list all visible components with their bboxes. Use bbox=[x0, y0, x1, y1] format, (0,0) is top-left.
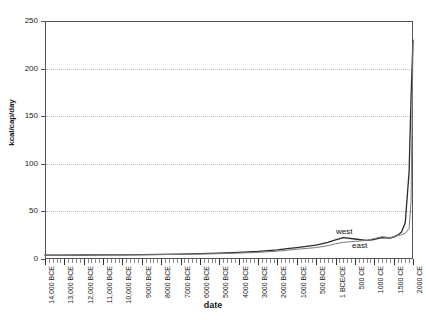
chart-container: kcal/cap/day 050100150200250 west east 1… bbox=[0, 0, 426, 320]
x-tick-label: 3000 BCE bbox=[261, 266, 268, 320]
x-tick-label: 1 BCE/CE bbox=[339, 266, 346, 320]
y-tick-mark bbox=[41, 211, 45, 212]
x-tick-label: 6000 BCE bbox=[203, 266, 210, 320]
x-tick-label: 9000 BCE bbox=[145, 266, 152, 320]
y-tick-mark bbox=[41, 116, 45, 117]
y-tick-mark bbox=[41, 69, 45, 70]
x-tick-label: 2000 CE bbox=[416, 266, 423, 320]
x-tick-label: 1500 CE bbox=[397, 266, 404, 320]
x-tick-label: 10,000 BCE bbox=[125, 266, 132, 320]
x-tick-label: 500 BCE bbox=[319, 266, 326, 320]
x-tick-label: 14,000 BCE bbox=[48, 266, 55, 320]
x-tick-label: 11,000 BCE bbox=[106, 266, 113, 320]
x-tick-label: 1000 BCE bbox=[300, 266, 307, 320]
x-tick-label: 500 CE bbox=[358, 266, 365, 320]
x-tick-label: 1000 CE bbox=[377, 266, 384, 320]
x-tick-label: 13,000 BCE bbox=[67, 266, 74, 320]
x-tick-label: 4000 BCE bbox=[242, 266, 249, 320]
y-tick-mark bbox=[41, 164, 45, 165]
y-tick-mark bbox=[41, 21, 45, 22]
x-tick-label: 12,000 BCE bbox=[87, 266, 94, 320]
x-tick-label: 7000 BCE bbox=[184, 266, 191, 320]
y-tick-mark bbox=[41, 259, 45, 260]
x-tick-label: 2000 BCE bbox=[280, 266, 287, 320]
x-axis-tick-labels: 14,000 BCE13,000 BCE12,000 BCE11,000 BCE… bbox=[0, 0, 426, 320]
x-tick-label: 8000 BCE bbox=[164, 266, 171, 320]
x-tick-label: 5000 BCE bbox=[222, 266, 229, 320]
x-axis-title: date bbox=[0, 300, 426, 310]
